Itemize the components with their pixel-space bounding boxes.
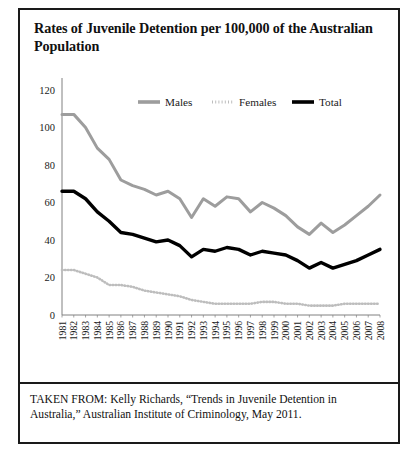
line-chart: 0204060801001201981198219831984198519861… [20, 72, 398, 382]
legend-label-males: Males [165, 96, 192, 108]
x-axis-tick-label: 1981 [57, 321, 68, 340]
x-axis-tick-label: 1987 [127, 321, 138, 340]
x-axis-tick-label: 1983 [80, 321, 91, 340]
y-axis-tick-label: 0 [50, 310, 55, 321]
x-axis-tick-label: 2005 [339, 321, 350, 340]
y-axis-tick-label: 120 [39, 85, 55, 96]
x-axis-tick-label: 1982 [68, 321, 79, 340]
y-axis-tick-label: 60 [45, 197, 56, 208]
y-axis-tick-label: 80 [45, 160, 56, 171]
x-axis-tick-label: 1994 [210, 321, 221, 340]
x-axis-tick-label: 1986 [115, 321, 126, 340]
x-axis-tick-label: 1984 [92, 321, 103, 340]
x-axis-tick-label: 2006 [351, 321, 362, 340]
x-axis-tick-label: 1991 [174, 321, 185, 340]
page-title: Rates of Juvenile Detention per 100,000 … [34, 20, 374, 56]
x-axis-tick-label: 1997 [245, 321, 256, 340]
x-axis-tick-label: 1989 [151, 321, 162, 340]
y-axis-tick-label: 100 [39, 122, 55, 133]
legend-label-total: Total [319, 96, 342, 108]
x-axis-tick-label: 2007 [363, 321, 374, 340]
x-axis-tick-label: 2002 [304, 321, 315, 340]
x-axis-tick-label: 2003 [316, 321, 327, 340]
x-axis-tick-label: 1992 [186, 321, 197, 340]
source-panel: TAKEN FROM: Kelly Richards, “Trends in J… [20, 382, 398, 442]
x-axis-tick-label: 2004 [327, 321, 338, 340]
figure-card: Rates of Juvenile Detention per 100,000 … [18, 8, 400, 444]
source-attribution: TAKEN FROM: Kelly Richards, “Trends in J… [30, 392, 386, 423]
x-axis-tick-label: 2008 [375, 321, 386, 340]
series-line-females [62, 270, 380, 306]
legend-label-females: Females [239, 96, 276, 108]
x-axis-tick-label: 1988 [139, 321, 150, 340]
x-axis-tick-label: 1985 [104, 321, 115, 340]
series-line-males [62, 114, 380, 234]
x-axis-tick-label: 1998 [257, 321, 268, 340]
x-axis-tick-label: 1995 [221, 321, 232, 340]
x-axis-tick-label: 2000 [280, 321, 291, 340]
chart-panel: Rates of Juvenile Detention per 100,000 … [20, 10, 398, 385]
x-axis-tick-label: 1996 [233, 321, 244, 340]
chart-plot-area: 0204060801001201981198219831984198519861… [20, 72, 398, 382]
x-axis-tick-label: 1993 [198, 321, 209, 340]
y-axis-tick-label: 40 [45, 235, 56, 246]
y-axis-tick-label: 20 [45, 272, 56, 283]
x-axis-tick-label: 1990 [163, 321, 174, 340]
x-axis-tick-label: 1999 [269, 321, 280, 340]
x-axis-tick-label: 2001 [292, 321, 303, 340]
